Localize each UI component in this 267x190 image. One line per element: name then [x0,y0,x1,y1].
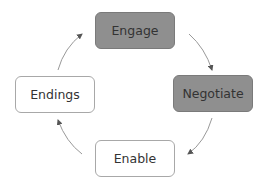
node-negotiate: Negotiate [173,75,253,112]
node-endings-label: Endings [30,87,80,102]
node-enable-label: Enable [114,151,157,166]
node-enable: Enable [95,140,175,177]
node-negotiate-label: Negotiate [182,86,243,101]
node-engage-label: Engage [111,23,158,38]
node-engage: Engage [95,12,175,49]
arrow-enable-to-endings [58,120,82,154]
node-endings: Endings [15,76,95,113]
arrow-endings-to-engage [58,34,82,70]
arrow-negotiate-to-enable [188,118,212,154]
arrow-engage-to-negotiate [189,34,212,70]
